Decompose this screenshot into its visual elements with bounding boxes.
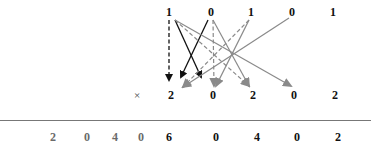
result-digit: 0: [138, 131, 144, 143]
result-digit: 0: [213, 131, 219, 143]
result-digit: 4: [254, 131, 260, 143]
sum-rule-line: [0, 120, 371, 121]
result-digit: 0: [294, 131, 300, 143]
multiplier-digit: 2: [332, 89, 338, 101]
carry-arrow: [213, 20, 214, 86]
result-digit: 2: [50, 131, 56, 143]
multiply-operator: ×: [134, 89, 140, 101]
multiplier-digit: 0: [210, 89, 216, 101]
carry-arrow: [175, 20, 249, 86]
arrow-layer: [0, 0, 386, 151]
multiplier-digit: 0: [291, 89, 297, 101]
result-digit: 2: [335, 131, 341, 143]
multiplicand-digit: 1: [248, 6, 254, 18]
result-digit: 4: [112, 131, 118, 143]
carry-arrow: [183, 18, 289, 87]
carry-arrow: [175, 20, 201, 77]
multiplicand-digit: 0: [289, 6, 295, 18]
result-digit: 6: [166, 131, 172, 143]
result-digit: 0: [84, 131, 90, 143]
multiplicand-digit: 0: [208, 6, 214, 18]
multiplicand-digit: 1: [330, 6, 336, 18]
multiplicand-digit: 1: [166, 6, 172, 18]
multiplier-digit: 2: [250, 89, 256, 101]
multiplier-digit: 2: [168, 89, 174, 101]
